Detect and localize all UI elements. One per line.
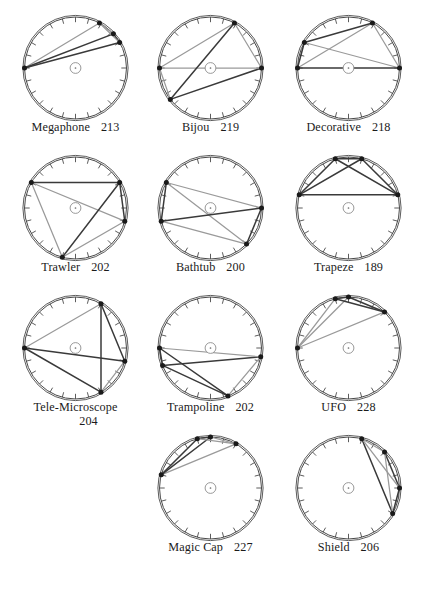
figure-cell: Trapeze189 [279,148,418,288]
figure-cell: Tele-Microscope204 [6,288,145,428]
figure-name: Bathtub [176,260,215,274]
vertex-points [297,156,401,197]
center-marker [343,343,354,354]
figure-name: Trampoline [167,400,224,414]
figure-number: 218 [372,120,391,134]
figure-name: UFO [321,400,346,414]
figure-name: Trawler [41,260,80,274]
inscribed-polygon-diagram [279,428,418,548]
figure-name: Magic Cap [168,540,223,554]
chords [298,297,385,348]
figure-cell: Magic Cap227 [141,428,280,568]
center-marker [70,343,81,354]
center-marker [343,63,354,74]
center-marker [205,63,216,74]
inscribed-polygon-diagram [279,148,418,268]
inscribed-polygon-diagram [279,8,418,128]
figure-caption: Trawler202 [6,260,145,274]
inscribed-polygon-diagram [6,288,145,408]
figure-name: Trapeze [314,260,354,274]
figure-caption: Tele-Microscope204 [6,400,145,429]
chords [299,159,398,195]
figure-cell: UFO228 [279,288,418,428]
chords [160,348,261,396]
inscribed-polygon-diagram [141,288,280,408]
figure-caption: Bijou219 [141,120,280,134]
figure-caption: Shield206 [279,540,418,554]
figure-caption: UFO228 [279,400,418,414]
chords [31,183,124,258]
figure-number: 227 [234,540,253,554]
figure-cell: Bathtub200 [141,148,280,288]
figure-number: 189 [364,260,383,274]
figure-number: 219 [221,120,240,134]
figure-caption: Trampoline202 [141,400,280,414]
figure-cell: Megaphone213 [6,8,145,148]
figure-cell: Trampoline202 [141,288,280,428]
figure-number: 202 [235,400,254,414]
center-marker [70,203,81,214]
figure-cell: Decorative218 [279,8,418,148]
figure-name: Decorative [306,120,360,134]
figure-caption: Decorative218 [279,120,418,134]
figure-name: Megaphone [31,120,89,134]
inscribed-polygon-diagram [141,8,280,128]
figure-number: 213 [101,120,120,134]
figure-name: Bijou [182,120,210,134]
figure-caption: Bathtub200 [141,260,280,274]
center-marker [205,343,216,354]
center-marker [205,203,216,214]
inscribed-polygon-diagram [141,148,280,268]
figure-cell: Trawler202 [6,148,145,288]
figure-caption: Megaphone213 [6,120,145,134]
figure-name: Shield [318,540,350,554]
figure-name: Tele-Microscope [34,400,118,414]
figure-caption: Magic Cap227 [141,540,280,554]
center-marker [343,483,354,494]
figure-number: 202 [91,260,110,274]
inscribed-polygon-diagram [6,8,145,128]
figure-number: 204 [32,414,145,428]
figure-number: 206 [361,540,380,554]
inscribed-polygon-diagram [279,288,418,408]
center-marker [343,203,354,214]
figure-number: 228 [357,400,376,414]
chords [362,439,400,514]
figure-cell: Bijou219 [141,8,280,148]
center-marker [205,483,216,494]
chords [160,23,262,99]
figure-grid: Megaphone213Bijou219Decorative218Trawler… [0,0,428,597]
inscribed-polygon-diagram [6,148,145,268]
figure-cell: Shield206 [279,428,418,568]
figure-number: 200 [226,260,245,274]
inscribed-polygon-diagram [141,428,280,548]
center-marker [70,63,81,74]
figure-caption: Trapeze189 [279,260,418,274]
